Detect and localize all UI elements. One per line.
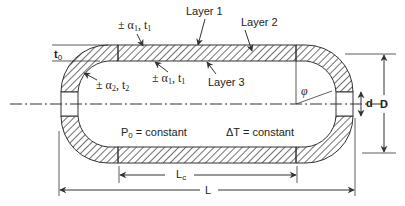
layer3-label: Layer 3 — [208, 76, 245, 88]
l-label: L — [205, 184, 211, 196]
D-label: D — [380, 98, 388, 110]
d-label: d — [366, 97, 373, 109]
layer1-arrow — [198, 19, 205, 45]
alpha1-inner-label: ± α1, t1 — [152, 71, 185, 86]
lc-label: Lc — [176, 168, 186, 182]
top-wall — [118, 45, 296, 61]
alpha2-label: ± α2, t2 — [96, 78, 129, 93]
phi-label: φ — [301, 84, 308, 98]
layer3-arrow — [207, 62, 216, 74]
alpha2-arrow — [84, 73, 97, 80]
p0-label: P0 = constant — [121, 126, 187, 140]
alpha1-top-arrow — [137, 34, 143, 46]
alpha1-top-label: ± α1, t1 — [118, 18, 151, 33]
layer2-label: Layer 2 — [241, 16, 278, 28]
dt-label: ΔT = constant — [226, 126, 294, 138]
right-dome-bottom — [296, 116, 353, 163]
bottom-wall — [118, 147, 296, 163]
vessel-diagram: t0 ± α1, t1 Layer 1 Layer 2 ± α1, t1 Lay… — [0, 0, 405, 206]
t0-label: t0 — [54, 48, 63, 62]
layer1-label: Layer 1 — [186, 5, 223, 17]
left-dome-bottom — [61, 116, 118, 163]
